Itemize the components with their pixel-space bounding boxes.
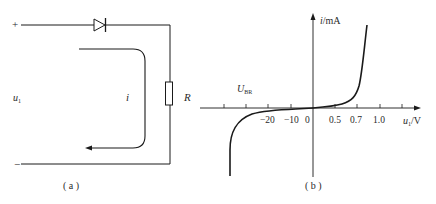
- x-axis-label: u1/V: [403, 115, 422, 127]
- tick-label: 0.7: [350, 115, 362, 125]
- y-axis-arrow-icon: [311, 13, 316, 20]
- x-axis-arrow-icon: [414, 106, 421, 111]
- figure-a-caption: ( a ): [63, 180, 79, 192]
- diode-icon: [94, 18, 106, 32]
- diagram-canvas: + − u1 i R ( a ) i/mA UBR −20: [0, 0, 436, 204]
- y-axis-label: i/mA: [320, 15, 341, 26]
- breakdown-voltage-label: UBR: [237, 83, 252, 95]
- resistor-icon: [166, 82, 173, 105]
- iv-curve: [230, 25, 367, 176]
- current-arrow-icon: [79, 49, 145, 148]
- tick-label: 1.0: [373, 115, 385, 125]
- iv-chart: [200, 13, 421, 177]
- x-tick-labels: −20 −10 0 0.5 0.7 1.0: [260, 115, 385, 125]
- minus-terminal-label: −: [14, 158, 20, 170]
- plus-terminal-label: +: [12, 18, 18, 30]
- figure-b-caption: ( b ): [305, 180, 322, 192]
- tick-label: 0.5: [329, 115, 341, 125]
- current-label: i: [126, 91, 129, 103]
- tick-label: −10: [284, 115, 299, 125]
- tick-label: 0: [305, 115, 310, 125]
- arrowhead-icon: [85, 146, 92, 151]
- tick-label: −20: [260, 115, 275, 125]
- resistor-label: R: [183, 91, 191, 103]
- circuit-figure: [21, 18, 173, 164]
- source-voltage-label: u1: [13, 92, 21, 104]
